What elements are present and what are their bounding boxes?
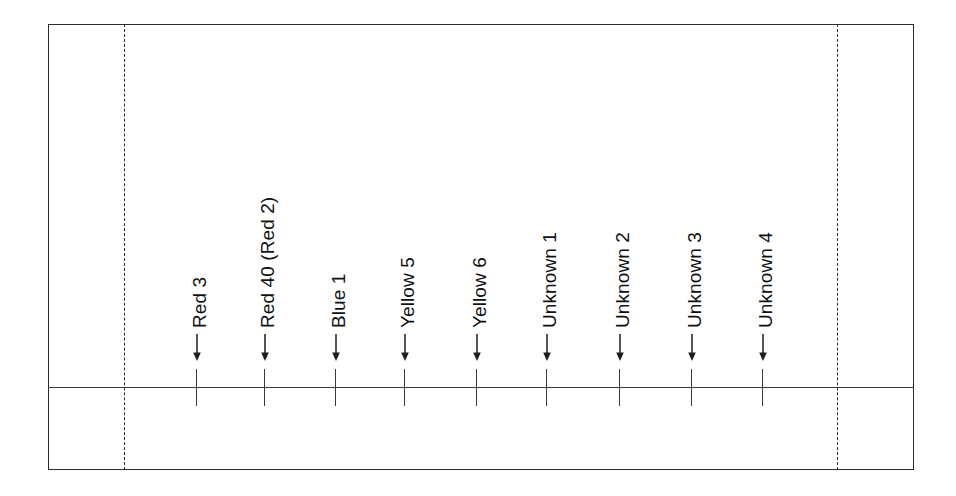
lane-tick-mark xyxy=(196,369,197,406)
tlc-plate-figure: Red 3Red 40 (Red 2)Blue 1Yellow 5Yellow … xyxy=(0,0,956,496)
down-arrow-icon xyxy=(613,334,627,362)
lane-tick-mark xyxy=(546,369,547,406)
down-arrow-icon xyxy=(756,334,770,362)
down-arrow-icon xyxy=(470,334,484,362)
down-arrow-icon xyxy=(258,334,272,362)
down-arrow-icon xyxy=(398,334,412,362)
lane-label: Red 40 (Red 2) xyxy=(258,197,277,328)
lane-label: Yellow 5 xyxy=(398,257,417,328)
lane-tick-mark xyxy=(264,369,265,406)
lane-tick-mark xyxy=(404,369,405,406)
plate-left-edge-dashed-line xyxy=(124,24,125,470)
lane-label: Unknown 2 xyxy=(613,232,632,328)
plate-right-edge-dashed-line xyxy=(837,24,838,470)
plate-outline xyxy=(48,24,914,470)
lane-label: Unknown 1 xyxy=(540,232,559,328)
down-arrow-icon xyxy=(329,334,343,362)
lane-label: Yellow 6 xyxy=(470,257,489,328)
origin-baseline xyxy=(48,387,914,388)
down-arrow-icon xyxy=(540,334,554,362)
lane-tick-mark xyxy=(619,369,620,406)
lane-label: Unknown 4 xyxy=(756,232,775,328)
lane-label: Red 3 xyxy=(190,277,209,328)
lane-tick-mark xyxy=(335,369,336,406)
lane-label: Blue 1 xyxy=(329,274,348,328)
lane-tick-mark xyxy=(476,369,477,406)
down-arrow-icon xyxy=(190,334,204,362)
lane-tick-mark xyxy=(762,369,763,406)
lane-label: Unknown 3 xyxy=(685,232,704,328)
down-arrow-icon xyxy=(685,334,699,362)
lane-tick-mark xyxy=(691,369,692,406)
